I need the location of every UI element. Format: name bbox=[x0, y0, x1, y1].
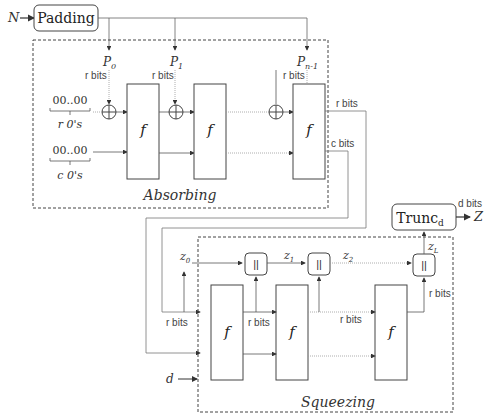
z2-label: z2 bbox=[342, 249, 354, 264]
svg-text:r bits: r bits bbox=[429, 288, 451, 299]
svg-text:r bits: r bits bbox=[85, 70, 107, 81]
svg-text:||: || bbox=[421, 259, 427, 271]
absorb-out-c-label: c bits bbox=[331, 138, 354, 149]
c-zeros: 00..00 c 0's bbox=[50, 144, 90, 182]
xor-icon bbox=[269, 105, 283, 119]
output-Z: Z bbox=[473, 209, 484, 224]
svg-text:r bits: r bits bbox=[166, 317, 188, 328]
z1-label: z1 bbox=[283, 249, 294, 264]
padding-box: Padding bbox=[34, 5, 98, 31]
svg-text:||: || bbox=[316, 258, 322, 270]
xor-icon bbox=[169, 105, 183, 119]
input-label: N bbox=[7, 10, 20, 25]
z0-label: z0 bbox=[179, 250, 191, 265]
sponge-diagram: N Padding Absorbing P0 P1 Pn-1 r bits r … bbox=[0, 0, 489, 419]
squeeze-f1: f bbox=[211, 285, 243, 380]
block-p1: P1 bbox=[169, 55, 183, 71]
svg-text:r 0's: r 0's bbox=[58, 118, 83, 131]
svg-text:r bits: r bits bbox=[152, 70, 174, 81]
d-input-label: d bbox=[166, 372, 174, 386]
zL-label: zL bbox=[427, 240, 439, 255]
concat-box-1: || bbox=[245, 253, 267, 275]
squeeze-f3: f bbox=[375, 285, 407, 380]
squeeze-f2: f bbox=[276, 285, 308, 380]
svg-text:r bits: r bits bbox=[248, 317, 270, 328]
svg-text:c 0's: c 0's bbox=[57, 169, 83, 182]
absorb-f2: f bbox=[194, 84, 226, 179]
absorb-out-r-label: r bits bbox=[336, 98, 358, 109]
svg-text:P0: P0 bbox=[102, 55, 116, 71]
svg-text:r bits: r bits bbox=[283, 70, 305, 81]
svg-text:Pn-1: Pn-1 bbox=[296, 55, 318, 71]
trunc-box: Truncd bbox=[392, 204, 456, 230]
concat-box-2: || bbox=[308, 253, 330, 275]
concat-box-3: || bbox=[413, 254, 435, 276]
svg-text:||: || bbox=[253, 258, 259, 270]
block-pn1: Pn-1 bbox=[296, 55, 318, 71]
xor-icon bbox=[102, 105, 116, 119]
svg-text:r bits: r bits bbox=[340, 314, 362, 325]
absorb-f1: f bbox=[127, 84, 159, 179]
svg-text:00..00: 00..00 bbox=[53, 144, 88, 157]
absorb-f3: f bbox=[293, 84, 325, 179]
absorbing-label: Absorbing bbox=[142, 187, 217, 203]
svg-text:Padding: Padding bbox=[37, 10, 95, 26]
svg-text:Truncd: Truncd bbox=[396, 210, 444, 228]
svg-text:P1: P1 bbox=[169, 55, 183, 71]
block-p0: P0 bbox=[102, 55, 116, 71]
squeezing-label: Squeezing bbox=[301, 394, 375, 410]
r-zeros: 00..00 r 0's bbox=[50, 94, 90, 131]
svg-text:00..00: 00..00 bbox=[53, 94, 88, 107]
trunc-out-bits: d bits bbox=[458, 198, 482, 209]
